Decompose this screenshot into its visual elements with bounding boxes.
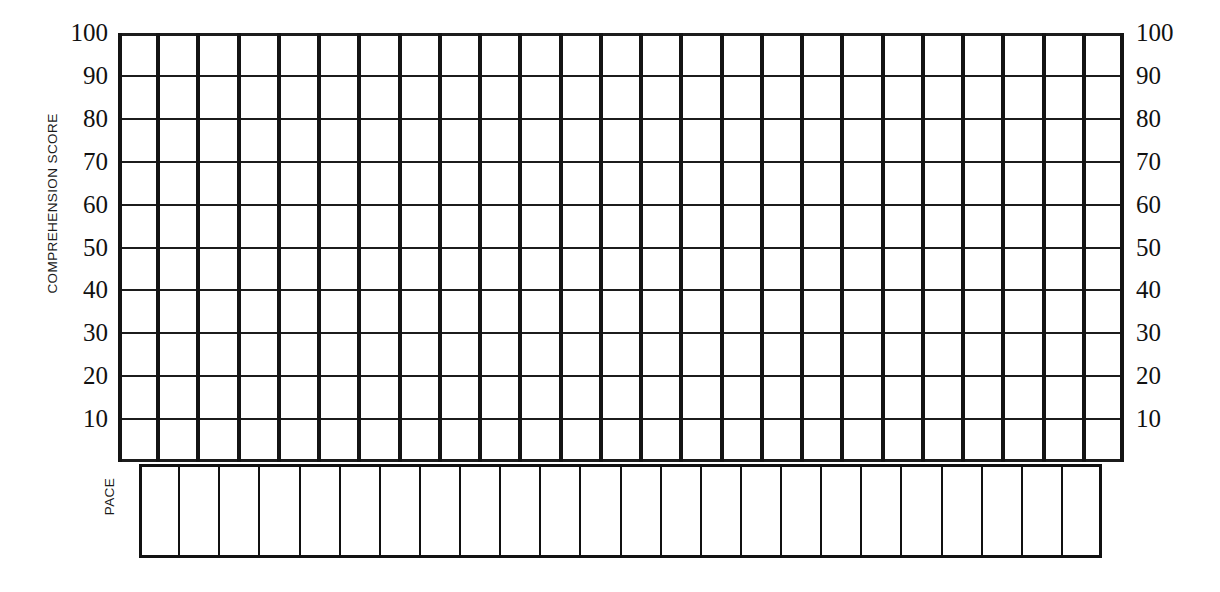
y-tick-label: 80 (42, 106, 108, 131)
y-tick-label: 70 (42, 149, 108, 174)
y-tick-label: 10 (1136, 406, 1202, 431)
y-tick-label: 70 (1136, 149, 1202, 174)
y-axis-tick-labels-left: 100 90 80 70 60 50 40 30 20 10 (42, 0, 108, 470)
y-tick-label: 60 (42, 192, 108, 217)
y-tick-label: 80 (1136, 106, 1202, 131)
y-tick-label: 40 (42, 277, 108, 302)
y-tick-label: 30 (1136, 320, 1202, 345)
y-tick-label: 90 (1136, 63, 1202, 88)
y-tick-label: 10 (42, 406, 108, 431)
y-tick-label: 30 (42, 320, 108, 345)
plot-grid[interactable] (118, 33, 1124, 462)
y-tick-label: 20 (1136, 363, 1202, 388)
y-tick-label: 50 (42, 235, 108, 260)
y-tick-label: 90 (42, 63, 108, 88)
y-tick-label: 100 (42, 20, 108, 45)
y-tick-label: 60 (1136, 192, 1202, 217)
y-tick-label: 100 (1136, 20, 1202, 45)
y-axis-tick-labels-right: 100 90 80 70 60 50 40 30 20 10 (1136, 0, 1202, 470)
comprehension-score-chart: COMPREHENSION SCORE 100 90 80 70 60 50 4… (0, 0, 1220, 592)
pace-row-grid[interactable] (139, 464, 1102, 558)
y-tick-label: 50 (1136, 235, 1202, 260)
y-tick-label: 20 (42, 363, 108, 388)
pace-axis-title: PACE (102, 462, 117, 532)
y-tick-label: 40 (1136, 277, 1202, 302)
